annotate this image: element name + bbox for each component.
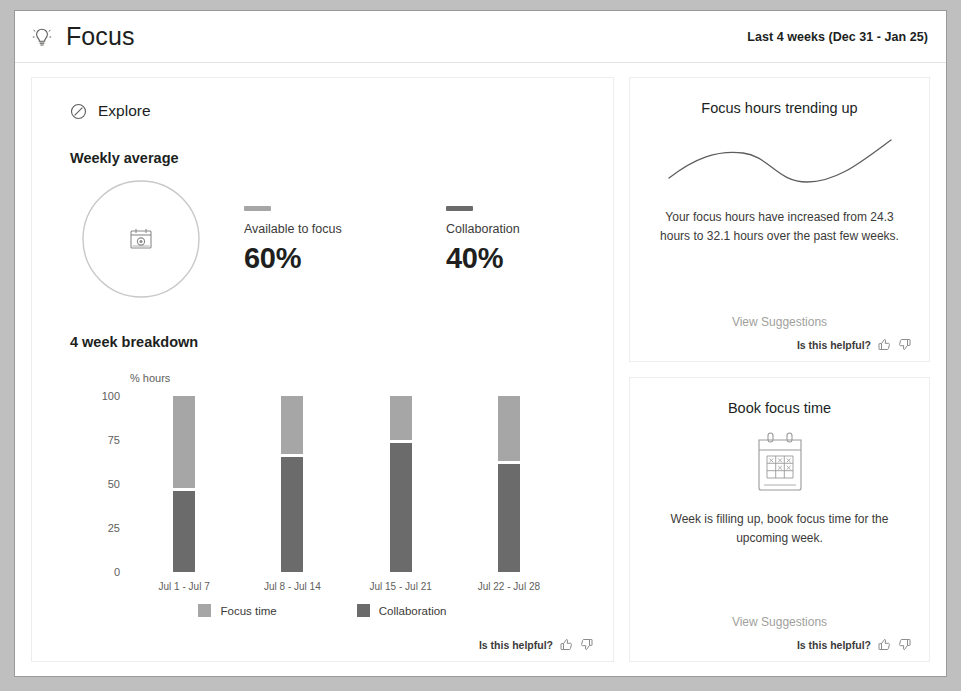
legend-label: Collaboration bbox=[379, 605, 447, 617]
metric-label-focus: Available to focus bbox=[244, 222, 374, 236]
y-axis-tick: 25 bbox=[108, 522, 120, 534]
weekly-average-row: Available to focus 60% Collaboration 40% bbox=[80, 178, 593, 300]
insights-column: Focus hours trending up Your focus hours… bbox=[629, 77, 930, 662]
bar-segment-focus-time[interactable] bbox=[390, 396, 412, 440]
main-card-helpful-row: Is this helpful? bbox=[479, 638, 593, 651]
metric-collaboration: Collaboration 40% bbox=[446, 206, 576, 275]
bar-segment-focus-time[interactable] bbox=[281, 396, 303, 454]
metric-swatch-collaboration bbox=[446, 206, 473, 211]
view-suggestions-link[interactable]: View Suggestions bbox=[732, 315, 827, 329]
chart-legend: Focus timeCollaboration bbox=[52, 604, 593, 617]
insight-helpful-row: Is this helpful? bbox=[797, 338, 911, 351]
helpful-label: Is this helpful? bbox=[797, 639, 871, 651]
bar-segment-focus-time[interactable] bbox=[173, 396, 195, 488]
lightbulb-icon bbox=[29, 24, 55, 50]
metric-swatch-focus bbox=[244, 206, 271, 211]
insight-helpful-row: Is this helpful? bbox=[797, 638, 911, 651]
bar-category-label: Jul 1 - Jul 7 bbox=[159, 581, 210, 592]
y-axis-label: % hours bbox=[130, 372, 170, 384]
y-axis-tick: 0 bbox=[114, 566, 120, 578]
app-header: Focus Last 4 weeks (Dec 31 - Jan 25) bbox=[15, 11, 946, 63]
bar-segment-collaboration[interactable] bbox=[173, 491, 195, 572]
insight-text: Week is filling up, book focus time for … bbox=[655, 510, 905, 547]
insight-title: Focus hours trending up bbox=[701, 100, 857, 116]
bar-segment-collaboration[interactable] bbox=[498, 464, 520, 572]
bar-segment-focus-time[interactable] bbox=[498, 396, 520, 461]
thumbs-up-icon[interactable] bbox=[878, 638, 891, 651]
weekly-average-metrics: Available to focus 60% Collaboration 40% bbox=[244, 178, 576, 275]
thumbs-up-icon[interactable] bbox=[560, 638, 573, 651]
y-axis-tick: 100 bbox=[102, 390, 120, 402]
bar-category-label: Jul 15 - Jul 21 bbox=[369, 581, 431, 592]
view-suggestions-link[interactable]: View Suggestions bbox=[732, 615, 827, 629]
y-axis-tick: 75 bbox=[108, 434, 120, 446]
bar-column[interactable]: Jul 22 - Jul 28 bbox=[455, 396, 563, 572]
trend-curve-icon bbox=[665, 130, 895, 194]
stacked-bar[interactable] bbox=[390, 396, 412, 572]
breakdown-bar-chart: % hours 1007550250 Jul 1 - Jul 7Jul 8 - … bbox=[52, 372, 593, 622]
app-header-left: Focus bbox=[29, 22, 135, 51]
bar-column[interactable]: Jul 15 - Jul 21 bbox=[347, 396, 455, 572]
calendar-clock-icon bbox=[126, 224, 156, 254]
breakdown-heading: 4 week breakdown bbox=[70, 334, 593, 350]
bar-segment-collaboration[interactable] bbox=[390, 443, 412, 572]
thumbs-down-icon[interactable] bbox=[898, 338, 911, 351]
stacked-bar[interactable] bbox=[281, 396, 303, 572]
bar-category-label: Jul 22 - Jul 28 bbox=[478, 581, 540, 592]
insight-title: Book focus time bbox=[728, 400, 831, 416]
compass-icon bbox=[70, 103, 87, 120]
metric-available-to-focus: Available to focus 60% bbox=[244, 206, 374, 275]
bar-column[interactable]: Jul 1 - Jul 7 bbox=[130, 396, 238, 572]
bar-column[interactable]: Jul 8 - Jul 14 bbox=[238, 396, 346, 572]
bar-segment-collaboration[interactable] bbox=[281, 457, 303, 572]
weekly-average-heading: Weekly average bbox=[70, 150, 593, 166]
date-range-label: Last 4 weeks (Dec 31 - Jan 25) bbox=[747, 30, 928, 44]
insight-text: Your focus hours have increased from 24.… bbox=[655, 208, 905, 245]
stacked-bar[interactable] bbox=[498, 396, 520, 572]
stacked-bar[interactable] bbox=[173, 396, 195, 572]
chart-plot-area: 1007550250 Jul 1 - Jul 7Jul 8 - Jul 14Ju… bbox=[130, 396, 563, 572]
metric-value-focus: 60% bbox=[244, 242, 374, 275]
legend-swatch bbox=[198, 604, 211, 617]
calendar-grid-icon bbox=[753, 430, 807, 496]
thumbs-down-icon[interactable] bbox=[580, 638, 593, 651]
legend-item[interactable]: Focus time bbox=[198, 604, 276, 617]
focus-app-window: Focus Last 4 weeks (Dec 31 - Jan 25) Exp… bbox=[14, 10, 947, 677]
explore-row[interactable]: Explore bbox=[70, 102, 593, 120]
insight-card-focus-trend: Focus hours trending up Your focus hours… bbox=[629, 77, 930, 362]
thumbs-down-icon[interactable] bbox=[898, 638, 911, 651]
explore-label: Explore bbox=[98, 102, 151, 120]
focus-main-card: Explore Weekly average bbox=[31, 77, 614, 662]
page-title: Focus bbox=[66, 22, 135, 51]
dashboard-body: Explore Weekly average bbox=[15, 63, 946, 676]
legend-swatch bbox=[357, 604, 370, 617]
bar-series-group: Jul 1 - Jul 7Jul 8 - Jul 14Jul 15 - Jul … bbox=[130, 396, 563, 572]
metric-value-collaboration: 40% bbox=[446, 242, 576, 275]
helpful-label: Is this helpful? bbox=[797, 339, 871, 351]
focus-donut-chart bbox=[80, 178, 202, 300]
y-axis-tick: 50 bbox=[108, 478, 120, 490]
insight-card-book-focus-time: Book focus time bbox=[629, 377, 930, 662]
bar-category-label: Jul 8 - Jul 14 bbox=[264, 581, 321, 592]
metric-label-collaboration: Collaboration bbox=[446, 222, 576, 236]
legend-label: Focus time bbox=[220, 605, 276, 617]
thumbs-up-icon[interactable] bbox=[878, 338, 891, 351]
legend-item[interactable]: Collaboration bbox=[357, 604, 447, 617]
helpful-label: Is this helpful? bbox=[479, 639, 553, 651]
